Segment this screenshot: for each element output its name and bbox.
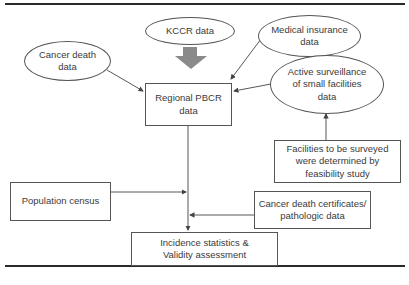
node-medical-insurance-data: Medical insurance data [258, 15, 361, 57]
edge-cancer-death-to-pbcr [107, 70, 143, 91]
node-active-surveillance-data-label: Active surveillance of small facilities … [288, 66, 367, 104]
node-cancer-death-data-label: Cancer death data [39, 49, 96, 74]
node-population-census-label: Population census [22, 195, 100, 208]
edge-active-surveillance-to-pbcr [234, 84, 271, 91]
node-death-certificates-pathologic-label: Cancer death certificates/ pathologic da… [259, 198, 367, 223]
node-active-surveillance-data: Active surveillance of small facilities … [270, 55, 384, 114]
node-incidence-validity-label: Incidence statistics & Validity assessme… [160, 237, 249, 262]
node-regional-pbcr-data-label: Regional PBCR data [155, 92, 222, 117]
node-kccr-data: KCCR data [145, 17, 235, 45]
node-incidence-validity: Incidence statistics & Validity assessme… [131, 232, 278, 266]
edge-medical-insurance-to-pbcr [231, 39, 261, 79]
node-facilities-feasibility-label: Facilities to be surveyed were determine… [287, 143, 389, 181]
node-cancer-death-data: Cancer death data [24, 41, 111, 81]
thick-arrow-kccr-to-pbcr [175, 47, 207, 69]
node-medical-insurance-data-label: Medical insurance data [271, 24, 348, 49]
node-regional-pbcr-data: Regional PBCR data [145, 83, 232, 126]
node-population-census: Population census [10, 182, 111, 221]
node-death-certificates-pathologic: Cancer death certificates/ pathologic da… [254, 191, 371, 229]
node-kccr-data-label: KCCR data [166, 25, 214, 38]
node-facilities-feasibility: Facilities to be surveyed were determine… [274, 140, 401, 183]
